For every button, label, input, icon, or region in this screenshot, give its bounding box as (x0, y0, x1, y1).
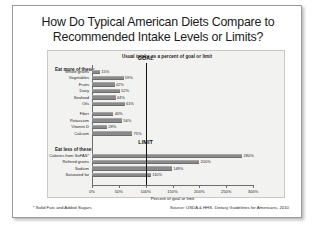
bar (92, 166, 172, 170)
chart-bar-row: Saturated fat110% (48, 172, 253, 178)
chart-bar-row: Oils61% (48, 101, 253, 107)
chart-subtitle: Usual intake as a percent of goal or lim… (48, 54, 286, 59)
chart-bar-row: Seafood44% (48, 95, 253, 101)
bar (92, 131, 132, 135)
chart-bar-row: Vegetables59% (48, 75, 253, 81)
x-tick-label: 150% (167, 189, 177, 194)
bar (92, 95, 116, 99)
page-title: How Do Typical American Diets Compare to… (29, 15, 287, 45)
bar (92, 154, 242, 158)
bar-category-label: Calories from SoFAS* (48, 153, 89, 159)
bar-category-label: Vegetables (48, 75, 89, 81)
bar-category-label: Vitamin D (48, 124, 89, 130)
chart-bar-row: Refined grains200% (48, 159, 253, 165)
footnote: * Solid Fats and Added Sugars (33, 205, 92, 210)
bar-category-label: Sodium (48, 166, 89, 172)
bar (92, 173, 151, 177)
chart-bar-row: Vitamin D28% (48, 124, 253, 130)
reference-line-goal (146, 63, 148, 151)
x-tick-label: 300% (248, 189, 258, 194)
x-tick-label: 0% (89, 189, 95, 194)
x-tick-label: 200% (194, 189, 204, 194)
chart-bar-row: Fiber40% (48, 111, 253, 117)
x-tick (173, 185, 174, 188)
bar-value-label: 52% (121, 88, 129, 94)
bar-category-label: Refined grains (48, 159, 89, 165)
bar (92, 112, 113, 116)
bar (92, 89, 120, 93)
bar-category-label: Fiber (48, 111, 89, 117)
bar-value-label: 61% (126, 101, 134, 107)
x-tick (199, 185, 200, 188)
x-axis-label: Percent of goal or limit (92, 196, 253, 201)
title-line-1: How Do Typical American Diets Compare to (42, 15, 275, 29)
reference-label-goal: GOAL (138, 55, 154, 61)
bar-value-label: 200% (201, 159, 211, 165)
bar-value-label: 44% (117, 95, 125, 101)
x-tick-label: 50% (115, 189, 123, 194)
chart-bar-row: Whole grains15% (48, 69, 253, 75)
bar-value-label: 75% (133, 131, 141, 137)
bar-value-label: 42% (116, 82, 124, 88)
x-tick-label: 250% (221, 189, 231, 194)
bar-category-label: Whole grains (48, 69, 89, 75)
bar-value-label: 56% (123, 118, 131, 124)
bar-category-label: Oils (48, 101, 89, 107)
x-tick (253, 185, 254, 188)
chart-panel: Usual intake as a percent of goal or lim… (47, 50, 285, 198)
bar-category-label: Dairy (48, 88, 89, 94)
chart-bar-row: Fruits42% (48, 82, 253, 88)
bar-category-label: Potassium (48, 118, 89, 124)
bar-category-label: Calcium (48, 131, 89, 137)
bar-value-label: 15% (101, 69, 109, 75)
x-tick-label: 100% (140, 189, 150, 194)
bar (92, 70, 100, 74)
bar-value-label: 149% (173, 166, 183, 172)
group-heading-eat-less: Eat less of these: (55, 147, 93, 152)
bar-category-label: Seafood (48, 95, 89, 101)
bar (92, 118, 122, 122)
bar-value-label: 59% (125, 75, 133, 81)
bar (92, 76, 124, 80)
bar-value-label: 40% (115, 111, 123, 117)
bar (92, 82, 115, 86)
chart-bar-row: Calories from SoFAS*280% (48, 153, 253, 159)
chart-bar-row: Sodium149% (48, 166, 253, 172)
bar-value-label: 280% (243, 153, 253, 159)
x-tick (92, 185, 93, 188)
source-citation: Source: USDA & HHS. Dietary Guidelines f… (170, 205, 289, 210)
bar (92, 102, 125, 106)
bar (92, 125, 107, 129)
chart-bar-row: Dairy52% (48, 88, 253, 94)
slide-frame: How Do Typical American Diets Compare to… (12, 5, 302, 218)
reference-line-limit (146, 147, 148, 185)
x-tick (226, 185, 227, 188)
x-tick (146, 185, 147, 188)
plot-area: 0%50%100%150%200%250%300% Whole grains15… (92, 65, 253, 185)
x-tick (119, 185, 120, 188)
chart-bar-row: Potassium56% (48, 118, 253, 124)
reference-label-limit: LIMIT (138, 139, 153, 145)
bar-category-label: Saturated fat (48, 172, 89, 178)
bar-category-label: Fruits (48, 82, 89, 88)
chart-bar-row: Calcium75% (48, 131, 253, 137)
bar-value-label: 110% (152, 172, 162, 178)
title-line-2: Recommended Intake Levels or Limits? (29, 30, 287, 45)
slide-canvas: How Do Typical American Diets Compare to… (0, 0, 315, 233)
bar-value-label: 28% (108, 124, 116, 130)
